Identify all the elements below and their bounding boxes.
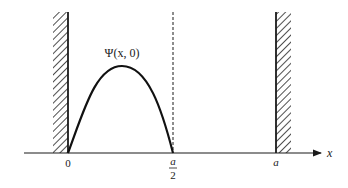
tick-label-origin: 0 [65, 157, 71, 169]
right-wall [276, 12, 291, 153]
right-wall-hatching [276, 12, 291, 153]
tick-half-numerator: a [170, 155, 176, 167]
left-wall-hatching [53, 12, 68, 153]
curve-label: Ψ(x, 0) [105, 46, 140, 60]
x-axis-label: x [326, 146, 333, 160]
wavefunction-curve [68, 66, 173, 153]
diagram-canvas: Ψ(x, 0) x 0 a 2 a [0, 0, 348, 188]
tick-label-width: a [273, 156, 279, 168]
tick-label-half: a 2 [169, 155, 177, 181]
tick-half-denominator: 2 [170, 169, 176, 181]
left-wall [53, 12, 68, 153]
